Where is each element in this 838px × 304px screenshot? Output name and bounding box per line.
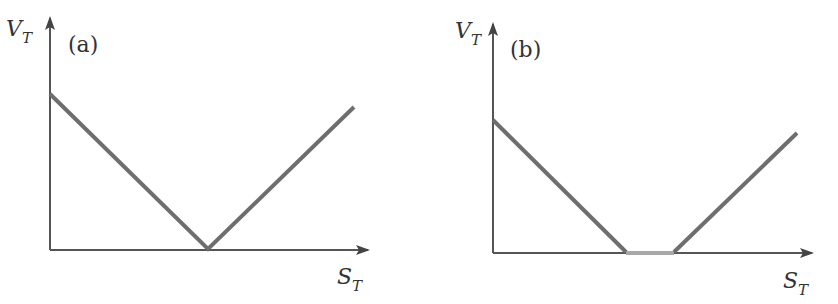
panel-label-a: (a) (68, 32, 98, 57)
payoff-diagrams: VT (a) ST VT (b) ST (0, 0, 838, 304)
x-axis-label-a: ST (337, 264, 363, 295)
panel-b: VT (b) ST (455, 18, 812, 299)
x-axis-label-b: ST (783, 268, 809, 299)
payoff-line-a (50, 94, 354, 249)
y-axis-label-b: VT (455, 18, 482, 49)
y-axis-label-a: VT (6, 16, 33, 47)
panel-a: VT (a) ST (6, 16, 368, 295)
payoff-line-b-right (674, 133, 797, 252)
payoff-line-b-left (493, 120, 626, 252)
panel-label-b: (b) (510, 37, 541, 62)
